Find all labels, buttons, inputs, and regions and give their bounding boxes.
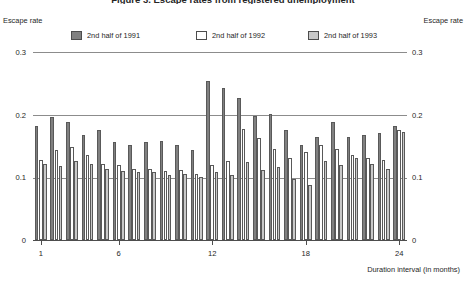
bar [175,145,179,240]
bar [206,81,210,240]
bar [308,185,312,240]
bar [191,150,195,240]
y-tick-left: 0.3 [4,48,26,57]
bar [273,149,277,240]
bar [195,174,199,240]
bar [362,135,366,240]
bar [66,122,70,240]
bar [257,138,261,240]
bar [261,170,265,240]
bar [39,160,43,240]
bar [324,161,328,240]
chart-legend: 2nd half of 1991 2nd half of 1992 2nd ha… [0,29,466,42]
bar [242,129,246,240]
chart-root: Figure 3. Escape rates from registered u… [0,0,466,281]
y-axis-label-right: Escape rate [424,16,463,25]
bar [128,145,132,240]
bar [246,162,250,240]
bar [366,158,370,240]
bar [284,130,288,240]
legend-item-1992: 2nd half of 1992 [196,29,265,42]
bar [97,130,101,240]
x-tick-mark [41,241,42,245]
legend-swatch-1993 [308,31,319,40]
bar [304,152,308,240]
bar [152,172,156,240]
bar [43,164,47,240]
bar [121,171,125,240]
legend-swatch-1992 [196,31,207,40]
bar [90,164,94,240]
bar [402,132,406,240]
bar [292,179,296,240]
bar [35,126,39,240]
bar [335,149,339,240]
bar [179,170,183,240]
y-axis-label-left: Escape rate [3,16,42,25]
bar [82,135,86,240]
bar [50,117,54,240]
bar [226,161,230,240]
bar [137,172,141,240]
bar [347,137,351,240]
x-tick-mark [212,241,213,245]
bar [199,177,203,240]
x-tick-label: 12 [202,249,222,258]
x-tick-label: 18 [296,249,316,258]
x-tick-label: 24 [389,249,409,258]
bar [113,142,117,240]
bar [59,166,63,240]
legend-item-1993: 2nd half of 1993 [308,29,377,42]
bar [70,147,74,240]
x-tick-mark [399,241,400,245]
bar [230,175,234,240]
y-tick-right: 0 [412,236,438,245]
x-tick-label: 1 [31,249,51,258]
y-tick-right: 0.1 [412,173,438,182]
bar [215,172,219,240]
legend-swatch-1991 [71,31,82,40]
bar [269,114,273,240]
bar [164,171,168,240]
bar [253,116,257,240]
bar [397,130,401,240]
bar [378,133,382,240]
bar [339,165,343,240]
x-axis-label: Duration interval (in months) [367,265,460,274]
bar [370,164,374,240]
bar-group-container [33,52,407,241]
bar [74,161,78,240]
bar [382,160,386,240]
bar [144,142,148,240]
bar [315,137,319,240]
legend-label-1991: 2nd half of 1991 [87,31,140,40]
x-tick-mark [306,241,307,245]
bar [55,150,59,240]
legend-label-1993: 2nd half of 1993 [324,31,377,40]
x-tick-mark [119,241,120,245]
bar [105,169,109,240]
bar [168,175,172,240]
x-tick-label: 6 [109,249,129,258]
bar [288,158,292,240]
plot-area [33,52,407,241]
bar [331,122,335,240]
y-tick-left: 0 [4,236,26,245]
chart-title: Figure 3. Escape rates from registered u… [0,0,466,4]
bar [277,167,281,240]
bar [393,126,397,240]
bar [222,88,226,240]
bar [355,158,359,240]
bar [183,174,187,240]
bar [351,155,355,240]
bar [210,165,214,240]
bar [148,169,152,240]
bar [101,164,105,240]
bar [160,141,164,240]
legend-item-1991: 2nd half of 1991 [71,29,140,42]
bar [117,165,121,240]
legend-label-1992: 2nd half of 1992 [212,31,265,40]
y-tick-left: 0.2 [4,111,26,120]
y-tick-right: 0.3 [412,48,438,57]
bar [86,155,90,240]
